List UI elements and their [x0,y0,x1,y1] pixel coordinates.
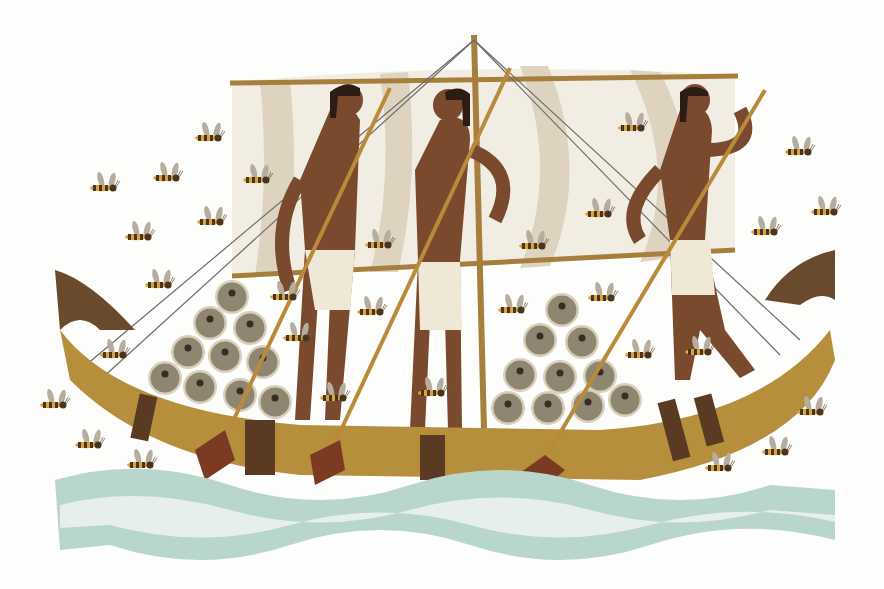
cargo-left [148,280,292,419]
boat-scene [0,0,884,589]
illustration [0,0,884,589]
water [55,469,835,560]
